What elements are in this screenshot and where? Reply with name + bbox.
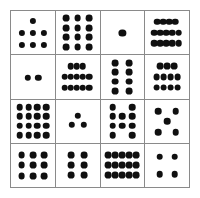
pip-dot — [105, 162, 112, 169]
cell-r2c3 — [101, 55, 146, 99]
pip-dot — [81, 152, 88, 159]
cell-r3c2 — [56, 100, 101, 144]
pip-dot — [160, 84, 167, 91]
pip-dot — [119, 172, 126, 179]
dice-pip-grid-figure — [0, 0, 200, 198]
pip-dot — [16, 104, 23, 111]
pip-dot — [41, 30, 47, 36]
pip-dot — [43, 123, 50, 130]
pip-group — [101, 144, 145, 187]
pip-dot — [129, 132, 136, 139]
pip-dot — [175, 29, 182, 36]
pip-dot — [41, 152, 48, 159]
cell-r2c4 — [145, 55, 190, 99]
pip-dot — [129, 113, 136, 120]
pip-dot — [172, 19, 179, 26]
pip-dot — [81, 121, 87, 127]
dice-grid — [10, 10, 190, 188]
pip-dot — [86, 43, 93, 50]
pip-dot — [86, 74, 93, 81]
pip-group — [11, 100, 55, 143]
pip-dot — [74, 34, 81, 41]
cell-r1c4 — [145, 11, 190, 55]
pip-group — [56, 55, 100, 98]
pip-dot — [155, 108, 162, 115]
cell-r4c4 — [145, 144, 190, 188]
pip-dot — [153, 84, 160, 91]
pip-dot — [164, 63, 171, 70]
pip-dot — [34, 113, 41, 120]
pip-dot — [25, 132, 32, 139]
pip-dot — [156, 171, 163, 178]
cell-r4c2 — [56, 144, 101, 188]
pip-dot — [30, 17, 36, 23]
pip-dot — [174, 84, 181, 91]
pip-dot — [129, 123, 136, 130]
pip-dot — [109, 132, 116, 139]
pip-dot — [68, 121, 74, 127]
pip-group — [56, 100, 100, 143]
pip-dot — [171, 63, 178, 70]
pip-dot — [25, 104, 32, 111]
pip-dot — [18, 162, 25, 169]
pip-dot — [109, 123, 116, 130]
pip-dot — [167, 84, 174, 91]
pip-dot — [16, 113, 23, 120]
pip-dot — [126, 60, 133, 67]
pip-dot — [86, 15, 93, 22]
pip-group — [145, 11, 189, 54]
pip-dot — [112, 69, 119, 76]
pip-dot — [129, 104, 136, 111]
cell-r4c1 — [11, 144, 56, 188]
pip-group — [11, 11, 55, 54]
pip-dot — [133, 162, 140, 169]
pip-dot — [160, 73, 167, 80]
pip-dot — [171, 171, 178, 178]
pip-dot — [30, 42, 36, 48]
pip-dot — [41, 42, 47, 48]
pip-dot — [133, 172, 140, 179]
pip-dot — [112, 78, 119, 85]
pip-dot — [126, 162, 133, 169]
pip-dot — [18, 30, 24, 36]
pip-dot — [18, 42, 24, 48]
pip-dot — [126, 87, 133, 94]
pip-dot — [25, 113, 32, 120]
pip-group — [145, 100, 189, 143]
pip-dot — [109, 113, 116, 120]
pip-dot — [18, 152, 25, 159]
pip-dot — [119, 162, 126, 169]
pip-dot — [68, 172, 75, 179]
pip-dot — [157, 63, 164, 70]
pip-group — [11, 144, 55, 187]
pip-dot — [29, 162, 36, 169]
pip-dot — [174, 73, 181, 80]
pip-dot — [86, 24, 93, 31]
pip-dot — [34, 132, 41, 139]
pip-dot — [16, 123, 23, 130]
pip-dot — [155, 129, 162, 136]
pip-dot — [112, 172, 119, 179]
cell-r2c1 — [11, 55, 56, 99]
pip-dot — [80, 63, 87, 70]
pip-dot — [171, 153, 178, 160]
pip-dot — [34, 123, 41, 130]
pip-dot — [68, 162, 75, 169]
pip-dot — [112, 162, 119, 169]
pip-dot — [24, 75, 30, 81]
cell-r3c1 — [11, 100, 56, 144]
pip-dot — [29, 172, 36, 179]
pip-dot — [126, 69, 133, 76]
pip-dot — [16, 132, 23, 139]
pip-dot — [119, 113, 126, 120]
pip-group — [56, 144, 100, 187]
pip-dot — [126, 78, 133, 85]
pip-dot — [74, 24, 81, 31]
pip-dot — [29, 152, 36, 159]
pip-dot — [164, 118, 171, 125]
cell-r2c2 — [56, 55, 101, 99]
pip-dot — [112, 87, 119, 94]
pip-dot — [25, 123, 32, 130]
pip-dot — [126, 152, 133, 159]
cell-r1c1 — [11, 11, 56, 55]
